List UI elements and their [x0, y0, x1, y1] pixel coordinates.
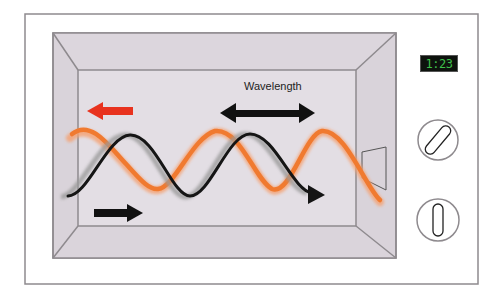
wavelength-label: Wavelength: [244, 80, 302, 92]
microwave-diagram: [0, 0, 503, 298]
control-knob-2[interactable]: [417, 199, 459, 241]
timer-display: 1:23: [420, 55, 458, 72]
timer-display-text: 1:23: [426, 57, 453, 71]
control-knob-1[interactable]: [418, 120, 458, 160]
